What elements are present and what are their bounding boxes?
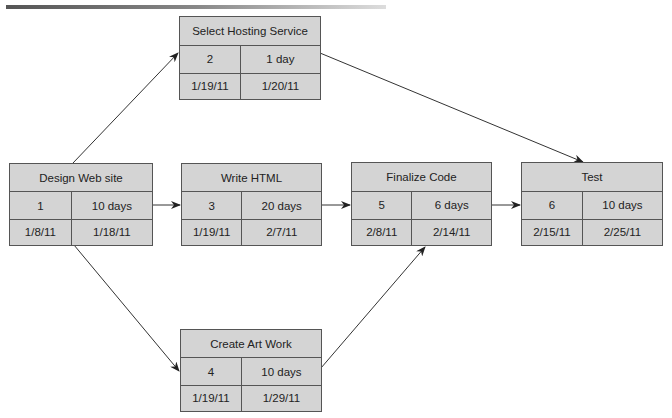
start-date: 1/19/11 xyxy=(181,386,242,411)
end-date: 1/20/11 xyxy=(241,74,320,99)
end-date: 2/14/11 xyxy=(412,220,491,245)
task-number: 6 xyxy=(522,192,583,220)
node-title: Create Art Work xyxy=(181,330,321,358)
node-finalize-code: Finalize Code 5 6 days 2/8/11 2/14/11 xyxy=(351,162,492,246)
task-number: 2 xyxy=(180,46,241,74)
task-duration: 20 days xyxy=(242,192,321,220)
node-test: Test 6 10 days 2/15/11 2/25/11 xyxy=(521,162,663,246)
node-create-art-work: Create Art Work 4 10 days 1/19/11 1/29/1… xyxy=(180,329,322,412)
start-date: 1/19/11 xyxy=(180,74,241,99)
node-title: Test xyxy=(522,163,662,192)
start-date: 1/8/11 xyxy=(10,220,72,245)
arrow-art-to-finalize xyxy=(321,247,425,368)
task-number: 5 xyxy=(352,192,412,220)
node-title: Design Web site xyxy=(10,164,152,192)
arrow-design-to-hosting xyxy=(73,53,178,163)
node-title: Finalize Code xyxy=(352,163,491,192)
node-select-hosting-service: Select Hosting Service 2 1 day 1/19/11 1… xyxy=(179,16,321,100)
start-date: 2/15/11 xyxy=(522,220,583,245)
task-number: 3 xyxy=(182,192,242,220)
start-date: 1/19/11 xyxy=(182,220,242,245)
task-duration: 10 days xyxy=(583,192,662,220)
node-design-web-site: Design Web site 1 10 days 1/8/11 1/18/11 xyxy=(9,163,153,246)
task-number: 1 xyxy=(10,192,72,220)
node-title: Select Hosting Service xyxy=(180,17,320,46)
task-number: 4 xyxy=(181,358,242,386)
node-write-html: Write HTML 3 20 days 1/19/11 2/7/11 xyxy=(181,163,322,246)
task-duration: 10 days xyxy=(72,192,152,220)
task-duration: 6 days xyxy=(412,192,491,220)
arrow-hosting-to-test xyxy=(320,53,583,162)
end-date: 2/7/11 xyxy=(242,220,321,245)
start-date: 2/8/11 xyxy=(352,220,412,245)
end-date: 2/25/11 xyxy=(583,220,662,245)
task-duration: 10 days xyxy=(242,358,321,386)
task-duration: 1 day xyxy=(241,46,320,74)
end-date: 1/18/11 xyxy=(72,220,152,245)
end-date: 1/29/11 xyxy=(242,386,321,411)
node-title: Write HTML xyxy=(182,164,321,192)
arrow-design-to-art xyxy=(74,245,179,371)
